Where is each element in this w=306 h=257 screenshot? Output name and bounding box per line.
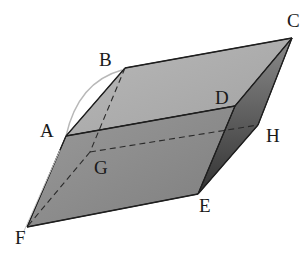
label-a: A	[40, 120, 54, 141]
label-e: E	[199, 195, 211, 216]
parallelepiped-diagram: A B C D G H E F	[0, 0, 306, 257]
label-d: D	[215, 87, 229, 108]
label-b: B	[99, 49, 112, 70]
label-c: C	[287, 10, 300, 31]
label-h: H	[266, 125, 280, 146]
label-g: G	[94, 157, 108, 178]
label-f: F	[15, 227, 26, 248]
